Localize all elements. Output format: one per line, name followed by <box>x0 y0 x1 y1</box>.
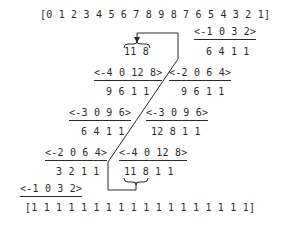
underbrace <box>124 178 148 185</box>
diagram-lines <box>0 0 283 226</box>
arrow-head-icon <box>134 37 140 43</box>
connector-line <box>108 33 178 190</box>
